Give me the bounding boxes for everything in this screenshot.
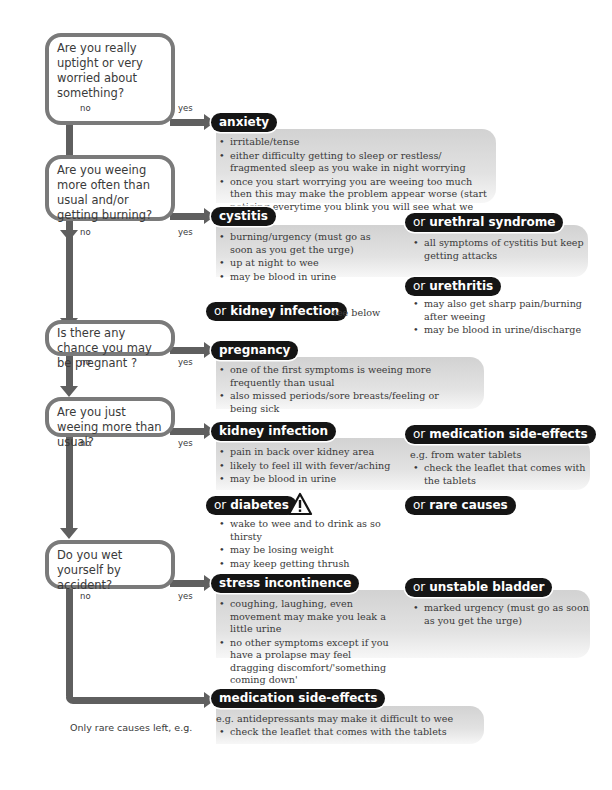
medication-final-list: check the leaflet that comes with the ta… (218, 726, 478, 740)
outcome-urethral-syndrome-badge: orurethral syndrome (405, 213, 563, 232)
urethritis-symptom-list: may also get sharp pain/burning after we… (412, 298, 592, 338)
unstable-bladder-symptom-list: marked urgency (must go as soon as you g… (412, 602, 592, 628)
question-wet-yourself: Do you wet yourself by accident? (45, 540, 175, 589)
kidney-infection-symptom-list: pain in back over kidney area likely to … (218, 446, 398, 487)
list-item: one of the first symptoms is weeing more… (218, 364, 468, 389)
outcome-urethritis-badge: orurethritis (405, 277, 501, 296)
outcome-kidney-infection-badge: kidney infection (211, 422, 336, 441)
question-weeing-more: Are you just weeing more than usual? (45, 397, 175, 437)
question-text: Are you weeing more often than usual and… (57, 163, 152, 222)
list-item: up at night to wee (218, 257, 378, 270)
medication-final-intro: e.g. antidepressants may make it difficu… (216, 713, 453, 726)
connector-yes-1 (170, 119, 206, 126)
outcome-unstable-bladder-badge: orunstable bladder (405, 578, 552, 597)
outcome-kidney-infection-ref-badge: orkidney infection (206, 302, 347, 321)
list-item: no other symptoms except if you have a p… (218, 637, 393, 687)
medication-side-effects-list: check the leaflet that comes with the ta… (412, 462, 592, 488)
outcome-pregnancy-badge: pregnancy (211, 341, 298, 360)
diabetes-symptom-list: wake to wee and to drink as so thirsty m… (218, 518, 388, 571)
list-item: likely to feel ill with fever/aching (218, 460, 398, 473)
list-item: may also get sharp pain/burning after we… (412, 298, 592, 323)
outcome-medication-side-effects-final-badge: medication side-effects (211, 689, 385, 708)
connector-yes-3 (170, 347, 206, 354)
list-item: irritable/tense (218, 136, 488, 149)
yes-label: yes (178, 227, 193, 237)
warning-triangle-icon (287, 492, 313, 516)
question-uptight: Are you really uptight or very worried a… (45, 33, 175, 125)
outcome-diabetes-badge: ordiabetes (206, 496, 297, 515)
list-item: also missed periods/sore breasts/feeling… (218, 390, 468, 415)
no-label: no (80, 357, 91, 367)
cystitis-symptom-list: burning/urgency (must go as soon as you … (218, 231, 378, 284)
outcome-stress-incontinence-badge: stress incontinence (211, 574, 359, 593)
question-pregnant: Is there any chance you may be pregnant … (45, 320, 175, 356)
question-text: Is there any chance you may be pregnant … (57, 326, 152, 370)
list-item: check the leaflet that comes with the ta… (412, 462, 592, 487)
medication-intro: e.g. from water tablets (410, 449, 521, 462)
no-label: no (80, 103, 91, 113)
question-text: Do you wet yourself by accident? (57, 548, 122, 592)
list-item: coughing, laughing, even movement may ma… (218, 598, 393, 636)
yes-label: yes (178, 103, 193, 113)
outcome-anxiety-badge: anxiety (211, 113, 277, 132)
question-text: Are you really uptight or very worried a… (57, 41, 143, 100)
connector-yes-5 (170, 580, 206, 587)
pregnancy-symptom-list: one of the first symptoms is weeing more… (218, 364, 468, 416)
question-text: Are you just weeing more than usual? (57, 405, 162, 449)
yes-label: yes (178, 357, 193, 367)
urethral-syndrome-symptom-list: all symptoms of cystitis but keep gettin… (412, 237, 592, 263)
list-item: may keep getting thrush (218, 558, 388, 571)
arrow-down-icon (60, 528, 78, 539)
list-item: may be losing weight (218, 544, 388, 557)
question-weeing-burning: Are you weeing more often than usual and… (45, 155, 175, 221)
stress-incontinence-symptom-list: coughing, laughing, even movement may ma… (218, 598, 393, 688)
list-item: all symptoms of cystitis but keep gettin… (412, 237, 592, 262)
no-label: no (80, 591, 91, 601)
list-item: marked urgency (must go as soon as you g… (412, 602, 592, 627)
yes-label: yes (178, 591, 193, 601)
list-item: wake to wee and to drink as so thirsty (218, 518, 388, 543)
list-item: may be blood in urine/discharge (412, 324, 592, 337)
rare-causes-note: Only rare causes left, e.g. (70, 722, 192, 733)
arrow-down-icon (60, 386, 78, 397)
list-item: burning/urgency (must go as soon as you … (218, 231, 378, 256)
list-item: pain in back over kidney area (218, 446, 398, 459)
yes-label: yes (178, 438, 193, 448)
list-item: either difficulty getting to sleep or re… (218, 150, 488, 175)
outcome-cystitis-badge: cystitis (211, 207, 276, 226)
see-below-note: see below (332, 307, 380, 320)
list-item: check the leaflet that comes with the ta… (218, 726, 478, 739)
outcome-rare-causes-badge: orrare causes (405, 496, 516, 515)
connector-yes-4 (170, 428, 206, 435)
connector-yes-2 (170, 213, 206, 220)
list-item: may be blood in urine (218, 271, 378, 284)
connector-final-horizontal (66, 697, 206, 704)
list-item: may be blood in urine (218, 473, 398, 486)
no-label: no (80, 438, 91, 448)
outcome-medication-side-effects-badge: ormedication side-effects (405, 425, 596, 444)
connector-q5-final (66, 578, 73, 703)
no-label: no (80, 227, 91, 237)
